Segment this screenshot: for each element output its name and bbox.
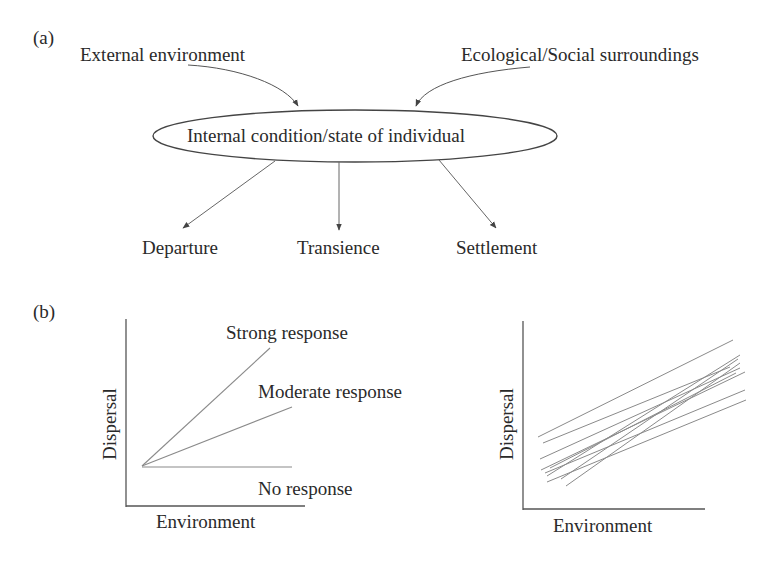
moderate-response-line [142,407,292,466]
reaction-norm-line [545,390,745,473]
arrow-to-departure [183,161,275,228]
reaction-norm-line [566,363,740,486]
reaction-norm-line [547,400,746,482]
diagram-graphics [0,0,779,565]
reaction-norm-line [561,359,738,479]
arrow-external-to-internal [188,65,298,106]
arrow-ecological-to-internal [416,67,530,106]
reaction-norm-line [550,373,736,468]
internal-condition-ellipse [153,110,557,162]
reaction-norm-line [547,355,740,476]
strong-response-line [142,348,270,466]
arrow-to-settlement [439,160,496,228]
reaction-norm-line [540,368,740,459]
right-plot [523,321,746,510]
left-plot [126,319,305,507]
